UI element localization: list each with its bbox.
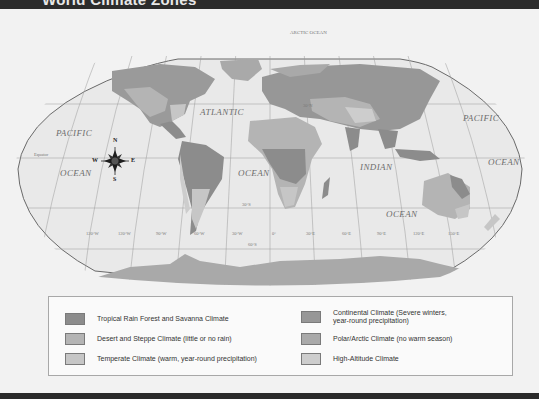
lon-label: 120°E [413,231,424,236]
lon-label: 60°W [194,231,205,236]
compass-n: N [113,137,117,143]
map-graphic [0,9,539,294]
lon-label: 120°W [118,231,131,236]
ocean-label-indian: INDIAN [360,162,392,172]
page-title: World Climate Zones [42,0,197,8]
ocean-label-arctic: ARCTIC OCEAN [290,30,327,35]
lon-label: 60°E [342,231,351,236]
compass-e: E [131,157,135,163]
legend-item-desert: Desert and Steppe Climate (little or no … [65,333,232,345]
legend-label: Polar/Arctic Climate (no warm season) [333,335,452,343]
lon-label: 30°W [232,231,243,236]
ocean-label-ocean-west: OCEAN [60,168,92,178]
legend-swatch [65,353,85,365]
legend-swatch [65,333,85,345]
legend-swatch [301,333,321,345]
legend: Tropical Rain Forest and Savanna Climate… [48,296,513,376]
ocean-label-ocean-east: OCEAN [488,157,520,167]
ocean-label-ocean-indian: OCEAN [386,209,418,219]
legend-label: Temperate Climate (warm, year-round prec… [97,355,257,363]
legend-swatch [65,313,85,325]
ocean-label-pacific-west: PACIFIC [56,128,92,138]
lon-label: 90°W [156,231,167,236]
compass-rose-icon [95,141,135,181]
bottom-bar [0,393,539,399]
legend-item-continental: Continental Climate (Severe winters, yea… [301,309,447,325]
legend-item-high-altitude: High-Altitude Climate [301,353,399,365]
ocean-label-atlantic: ATLANTIC [200,107,244,117]
compass-s: S [113,176,116,182]
lat-label-30s: 30°S [242,202,251,207]
equator-label: Equator [34,152,48,157]
legend-label-line2: year-round precipitation) [333,317,447,325]
compass-w: W [92,157,98,163]
legend-label: Desert and Steppe Climate (little or no … [97,335,232,343]
ocean-label-ocean-atlantic: OCEAN [238,168,270,178]
legend-label: High-Altitude Climate [333,355,399,363]
compass-rose: N S E W [95,141,135,181]
legend-item-tropical: Tropical Rain Forest and Savanna Climate [65,313,229,325]
legend-item-temperate: Temperate Climate (warm, year-round prec… [65,353,257,365]
legend-label: Continental Climate (Severe winters, [333,309,447,317]
lon-label: 90°E [377,231,386,236]
legend-label-group: Continental Climate (Severe winters, yea… [333,309,447,325]
legend-item-polar: Polar/Arctic Climate (no warm season) [301,333,452,345]
lon-label: 30°E [306,231,315,236]
legend-label: Tropical Rain Forest and Savanna Climate [97,315,229,323]
lat-label-30n: 30°N [303,103,313,108]
lon-label: 120°W [86,231,99,236]
lat-label-60s: 60°S [248,242,257,247]
legend-swatch [301,311,321,323]
world-map: PACIFIC OCEAN ATLANTIC OCEAN INDIAN OCEA… [0,9,539,294]
legend-swatch [301,353,321,365]
lon-label: 0° [272,231,276,236]
title-bar: World Climate Zones [0,0,539,9]
ocean-label-pacific-east: PACIFIC [463,113,499,123]
lon-label: 150°E [448,231,459,236]
